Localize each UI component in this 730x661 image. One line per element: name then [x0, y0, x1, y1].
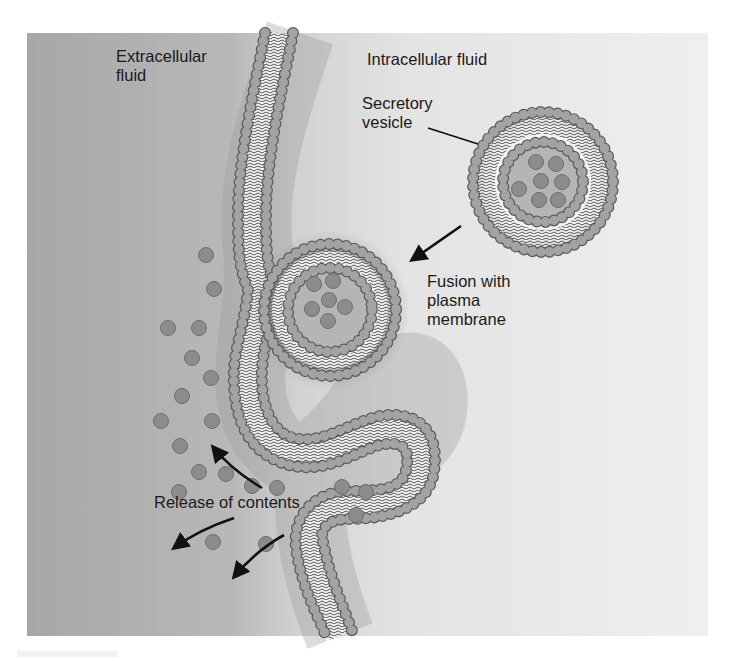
fusion-label: Fusion with plasma membrane	[427, 272, 510, 329]
fusing-vesicle	[250, 230, 410, 390]
intracellular-fluid-label: Intracellular fluid	[367, 50, 487, 69]
caption-remnant	[17, 651, 117, 657]
release-label: Release of contents	[154, 493, 300, 512]
secretory-vesicle	[473, 112, 613, 252]
secretory-vesicle-label: Secretory vesicle	[362, 94, 433, 132]
extracellular-fluid-label: Extracellular fluid	[116, 47, 207, 85]
